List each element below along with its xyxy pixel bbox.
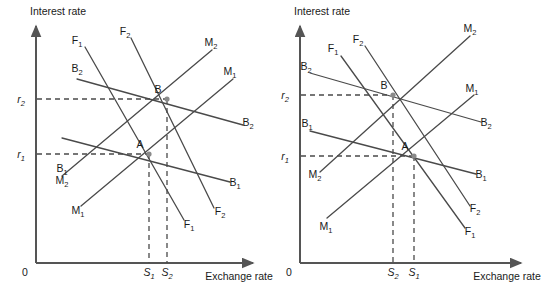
curve-M2-label-end: M2 (205, 36, 218, 51)
y-tick-r2: r2 (17, 93, 26, 108)
curve-F1-label-end: F1 (184, 218, 195, 233)
curve-B2-label-end: B2 (480, 116, 491, 131)
point-label-B: B (380, 79, 387, 91)
y-axis-label: Interest rate (294, 5, 350, 17)
curve-F2-label-start: F2 (353, 33, 364, 48)
x-tick-S2: S2 (161, 266, 173, 281)
curve-F2[interactable] (365, 46, 470, 206)
curve-M2[interactable] (320, 36, 470, 172)
curve-F1-label-end: F1 (465, 225, 476, 240)
y-tick-r2: r2 (281, 89, 290, 104)
economics-diagram-figure: Interest rateExchange rate0F1F1F2F2M1M1M… (0, 0, 555, 291)
diagram-canvas: Interest rateExchange rate0F1F1F2F2M1M1M… (0, 0, 555, 291)
point-marker-B[interactable] (390, 92, 395, 97)
curve-F2-label-end: F2 (470, 202, 481, 217)
curve-F1-label-start: F1 (72, 34, 83, 49)
curve-M1[interactable] (81, 79, 233, 206)
curve-F1-label-start: F1 (328, 42, 339, 57)
curve-B2-label-start: B2 (300, 60, 311, 75)
x-axis-label: Exchange rate (205, 270, 273, 282)
x-tick-S1: S1 (408, 266, 419, 281)
curve-B2-label-end: B2 (242, 116, 253, 131)
curve-B1-label-end: B1 (229, 176, 240, 191)
curve-F2-label-start: F2 (120, 25, 131, 40)
curve-M2-label-end: M2 (464, 22, 477, 37)
curve-B1-label-start: B1 (301, 117, 312, 132)
origin-label: 0 (286, 266, 292, 278)
curve-B2[interactable] (310, 73, 481, 122)
curve-F2[interactable] (131, 38, 214, 208)
x-axis-label: Exchange rate (473, 270, 541, 282)
x-tick-S1: S1 (143, 266, 154, 281)
curve-B1[interactable] (62, 138, 230, 182)
curve-M1-label-end: M1 (224, 65, 237, 80)
point-marker-B[interactable] (164, 96, 169, 101)
point-marker-A[interactable] (146, 151, 151, 156)
panels-group: Interest rateExchange rate0F1F1F2F2M1M1M… (17, 5, 541, 282)
curve-M2-label-start: M2 (309, 168, 322, 183)
curve-B1-label-end: B1 (475, 168, 486, 183)
y-tick-r1: r1 (281, 150, 289, 165)
y-tick-r1: r1 (17, 148, 25, 163)
curve-M1-label-start: M1 (72, 204, 85, 219)
curve-M1-label-start: M1 (320, 220, 333, 235)
curve-B2-label-start: B2 (71, 62, 82, 77)
curve-M1-label-end: M1 (466, 82, 479, 97)
origin-label: 0 (22, 266, 28, 278)
x-tick-S2: S2 (387, 266, 399, 281)
point-marker-A[interactable] (411, 153, 416, 158)
right-diagram: Interest rateExchange rate0F1F1F2F2M1M1M… (281, 5, 541, 282)
point-label-A: A (401, 140, 408, 152)
curve-F1[interactable] (85, 47, 184, 220)
point-label-B: B (154, 83, 161, 95)
point-label-A: A (136, 138, 143, 150)
y-axis-label: Interest rate (30, 5, 86, 17)
curve-F2-label-end: F2 (215, 205, 226, 220)
left-diagram: Interest rateExchange rate0F1F1F2F2M1M1M… (17, 5, 273, 282)
